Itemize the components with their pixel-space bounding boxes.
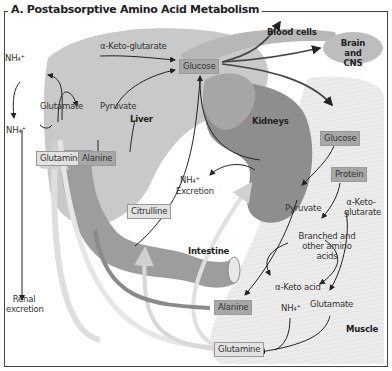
kidney-nh4: NH₄⁺ xyxy=(180,175,200,185)
muscle-pyruvate: Pyruvate xyxy=(285,203,321,213)
liver-nh4-mid: NH₄⁺ xyxy=(6,125,26,135)
muscle-alanine-box: Alanine xyxy=(214,300,252,315)
liver-alanine-box: Alanine xyxy=(78,151,116,166)
citrulline-box: Citrulline xyxy=(127,204,171,219)
renal-excretion-label: Renal excretion xyxy=(6,294,42,314)
liver-label: Liver xyxy=(130,114,153,124)
muscle-label: Muscle xyxy=(346,324,378,334)
intestine-end xyxy=(228,257,240,283)
liver-akg-label: α-Keto-glutarate xyxy=(100,41,167,51)
muscle-branched: Branched and other amino acids xyxy=(297,231,357,261)
muscle-glutamine-box: Glutamine xyxy=(214,342,264,357)
blood-cells-label: Blood cells xyxy=(267,27,317,37)
muscle-protein-box: Protein xyxy=(331,167,367,182)
muscle-glucose-box: Glucose xyxy=(320,131,360,146)
muscle-nh4: NH₄⁺ xyxy=(281,303,301,313)
kidney-excretion: Excretion xyxy=(176,186,214,196)
muscle-akg: α-Keto-glutarate xyxy=(344,197,378,217)
brain-label: Brain and CNS xyxy=(335,38,371,68)
kidneys-label: Kidneys xyxy=(252,116,289,126)
intestine-label: Intestine xyxy=(188,246,229,256)
liver-pyruvate: Pyruvate xyxy=(100,101,136,111)
muscle-keto-acid: α-Keto acid xyxy=(275,282,321,292)
liver-glucose-box: Glucose xyxy=(179,59,219,74)
liver-nh4-top: NH₄⁺ xyxy=(5,53,25,63)
liver-glutamate: Glutamate xyxy=(40,101,83,111)
muscle-glutamate: Glutamate xyxy=(310,299,353,309)
